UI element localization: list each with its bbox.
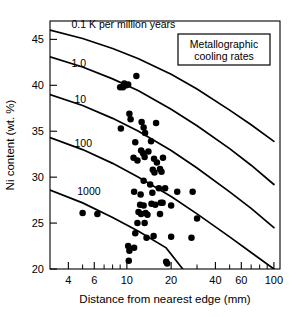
data-point [156, 185, 163, 192]
chart-container: 2025303540454610204060100 0.1 K per mill… [0, 0, 300, 317]
data-point [168, 234, 175, 241]
y-tick-label-45: 45 [32, 33, 44, 45]
y-tick-label-35: 35 [32, 125, 44, 137]
data-point [164, 260, 171, 267]
data-point [144, 212, 151, 219]
data-point [157, 211, 164, 218]
x-tick-label-20: 20 [165, 274, 177, 286]
data-point [149, 190, 156, 197]
data-point [126, 111, 133, 118]
y-tick-label-25: 25 [32, 217, 44, 229]
y-tick-label-40: 40 [32, 79, 44, 91]
data-point [189, 189, 196, 196]
data-point [127, 116, 134, 123]
legend-line-0: Metallographic [190, 38, 258, 50]
data-point [134, 220, 141, 227]
curve-label-1: 1.0 [71, 57, 86, 69]
data-point [148, 138, 155, 145]
data-point [141, 154, 148, 161]
x-tick-label-40: 40 [209, 274, 221, 286]
data-point [174, 189, 181, 196]
data-point [162, 185, 169, 192]
data-point [132, 139, 139, 146]
legend-box: Metallographiccooling rates [178, 34, 270, 65]
data-point [137, 191, 144, 198]
data-point [188, 235, 195, 242]
curve-label-3: 100 [74, 137, 92, 149]
data-point [153, 120, 160, 127]
curve-label-2: 10 [74, 93, 86, 105]
data-point [143, 235, 150, 242]
data-point [168, 202, 175, 209]
data-point [118, 125, 125, 132]
data-point [150, 233, 157, 240]
data-point [160, 155, 167, 162]
x-tick-label-60: 60 [235, 274, 247, 286]
data-point [151, 169, 158, 176]
data-point [145, 148, 152, 155]
y-tick-label-20: 20 [32, 263, 44, 275]
cooling-rate-scatter-chart: 2025303540454610204060100 0.1 K per mill… [0, 0, 300, 317]
data-point [133, 73, 140, 80]
data-point [154, 159, 161, 166]
data-point [147, 181, 154, 188]
data-point [140, 178, 147, 185]
data-point [140, 202, 147, 209]
x-tick-label-6: 6 [91, 274, 97, 286]
data-point [142, 130, 149, 137]
data-point [131, 245, 138, 252]
x-tick-label-100: 100 [265, 274, 283, 286]
data-point [140, 124, 147, 131]
data-point [158, 168, 165, 175]
data-point [94, 211, 101, 218]
data-point [125, 81, 132, 88]
data-point [132, 230, 139, 237]
data-point [141, 220, 148, 227]
curve-label-0: 0.1 K per million years [71, 18, 175, 30]
data-point [131, 189, 138, 196]
x-axis-title: Distance from nearest edge (mm) [79, 293, 250, 305]
y-tick-label-30: 30 [32, 171, 44, 183]
x-tick-label-10: 10 [121, 274, 133, 286]
data-point [134, 157, 141, 164]
legend-line-1: cooling rates [194, 50, 254, 62]
data-point [79, 210, 86, 217]
x-tick-label-4: 4 [65, 274, 71, 286]
curve-label-4: 1000 [77, 185, 101, 197]
data-point [159, 200, 166, 207]
data-point [194, 215, 201, 222]
y-axis-title: Ni content (wt. %) [4, 99, 16, 190]
